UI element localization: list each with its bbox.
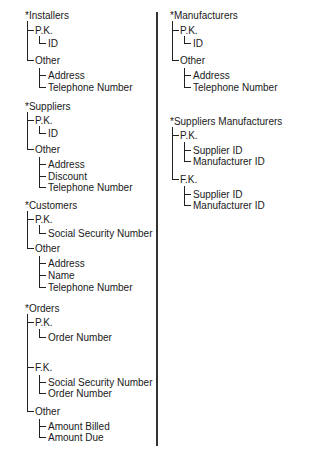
tree-branch-line	[39, 176, 46, 177]
tree-trunk-line	[39, 157, 40, 188]
tree-trunk-line	[184, 68, 185, 88]
group-label-pk: P.K.	[35, 25, 53, 36]
tree-branch-line	[27, 149, 34, 150]
tree-branch-line	[184, 194, 191, 195]
tree-trunk-line	[27, 211, 28, 249]
field-label: Order Number	[48, 332, 112, 343]
field-label: ID	[48, 38, 58, 49]
column-divider	[156, 12, 158, 446]
tree-branch-line	[39, 382, 46, 383]
tree-trunk-line	[39, 256, 40, 288]
tree-branch-line	[27, 120, 34, 121]
field-label: Telephone Number	[48, 82, 133, 93]
entity-title: *Orders	[25, 303, 59, 314]
tree-trunk-line	[172, 21, 173, 61]
field-label: Manufacturer ID	[193, 200, 265, 211]
tree-branch-line	[27, 367, 34, 368]
tree-branch-line	[39, 133, 46, 134]
field-label: Discount	[48, 171, 87, 182]
tree-branch-line	[184, 205, 191, 206]
tree-branch-line	[39, 164, 46, 165]
entity-title: *Manufacturers	[170, 10, 238, 21]
field-label: Amount Due	[48, 432, 104, 443]
tree-trunk-line	[27, 21, 28, 61]
group-label-other: Other	[35, 144, 60, 155]
tree-branch-line	[39, 233, 46, 234]
tree-branch-line	[27, 219, 34, 220]
group-label-pk: P.K.	[180, 25, 198, 36]
tree-branch-line	[39, 393, 46, 394]
tree-trunk-line	[27, 314, 28, 411]
field-label: Address	[193, 70, 230, 81]
entity-title: *Suppliers	[25, 101, 71, 112]
group-label-pk: P.K.	[35, 317, 53, 328]
tree-branch-line	[27, 60, 34, 61]
field-label: Telephone Number	[48, 182, 133, 193]
group-label-fk: F.K.	[180, 174, 197, 185]
tree-branch-line	[172, 179, 179, 180]
field-label: Supplier ID	[193, 189, 242, 200]
tree-branch-line	[39, 263, 46, 264]
field-label: Telephone Number	[48, 282, 133, 293]
group-label-pk: P.K.	[180, 130, 198, 141]
entity-title: *Installers	[25, 10, 69, 21]
group-label-pk: P.K.	[35, 115, 53, 126]
tree-branch-line	[27, 248, 34, 249]
field-label: Address	[48, 258, 85, 269]
field-label: Address	[48, 70, 85, 81]
tree-branch-line	[39, 275, 46, 276]
tree-branch-line	[184, 161, 191, 162]
tree-trunk-line	[39, 68, 40, 88]
tree-branch-line	[39, 287, 46, 288]
tree-trunk-line	[184, 142, 185, 162]
tree-branch-line	[172, 135, 179, 136]
tree-trunk-line	[184, 186, 185, 206]
group-label-other: Other	[35, 55, 60, 66]
field-label: ID	[193, 38, 203, 49]
group-label-other: Other	[180, 55, 205, 66]
tree-branch-line	[39, 87, 46, 88]
tree-branch-line	[27, 322, 34, 323]
tree-branch-line	[184, 75, 191, 76]
entity-title: *Customers	[25, 200, 77, 211]
tree-branch-line	[172, 30, 179, 31]
group-label-other: Other	[35, 243, 60, 254]
field-label: Amount Billed	[48, 421, 110, 432]
tree-branch-line	[184, 150, 191, 151]
tree-branch-line	[39, 187, 46, 188]
tree-trunk-line	[39, 419, 40, 438]
group-label-pk: P.K.	[35, 214, 53, 225]
tree-branch-line	[184, 43, 191, 44]
field-label: Order Number	[48, 388, 112, 399]
field-label: Social Security Number	[48, 228, 152, 239]
tree-branch-line	[39, 337, 46, 338]
tree-branch-line	[27, 411, 34, 412]
tree-branch-line	[27, 30, 34, 31]
field-label: Social Security Number	[48, 377, 152, 388]
field-label: Address	[48, 159, 85, 170]
tree-trunk-line	[39, 375, 40, 394]
field-label: ID	[48, 128, 58, 139]
tree-trunk-line	[27, 112, 28, 150]
tree-branch-line	[184, 87, 191, 88]
field-label: Manufacturer ID	[193, 156, 265, 167]
entity-title: *Suppliers Manufacturers	[170, 116, 282, 127]
tree-branch-line	[39, 43, 46, 44]
tree-branch-line	[39, 437, 46, 438]
tree-branch-line	[172, 60, 179, 61]
group-label-fk: F.K.	[35, 362, 52, 373]
group-label-other: Other	[35, 406, 60, 417]
field-label: Telephone Number	[193, 82, 278, 93]
field-label: Supplier ID	[193, 145, 242, 156]
tree-branch-line	[39, 426, 46, 427]
field-label: Name	[48, 270, 75, 281]
tree-branch-line	[39, 75, 46, 76]
